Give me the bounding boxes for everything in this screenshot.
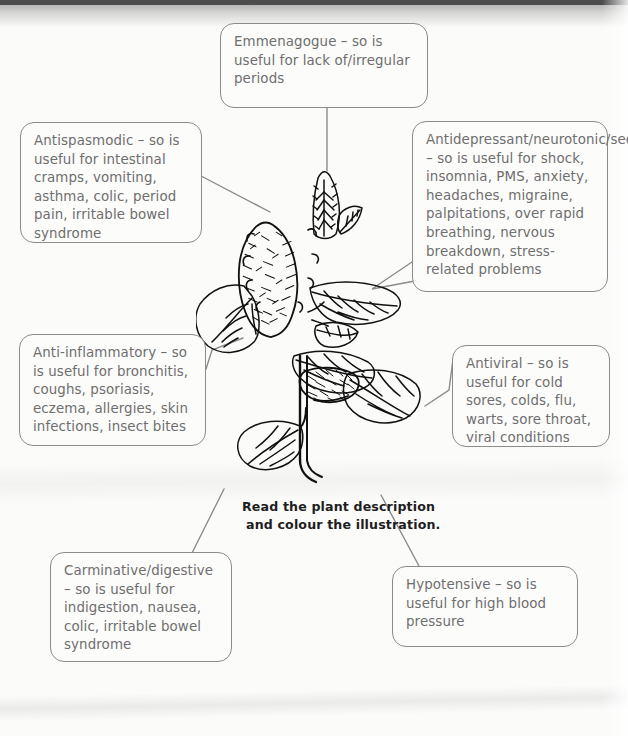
leader-antispasmodic bbox=[201, 176, 270, 212]
callout-hypotensive[interactable]: Hypotensive – so is useful for high bloo… bbox=[392, 566, 578, 647]
scan-shadow-bottom bbox=[0, 684, 628, 722]
callout-antidepressant[interactable]: Antidepressant/neurotonic/sedative/calmi… bbox=[412, 121, 608, 292]
callout-emmenagogue[interactable]: Emmenagogue – so is useful for lack of/i… bbox=[220, 23, 428, 108]
callout-antispasmodic[interactable]: Antispasmodic – so is useful for intesti… bbox=[20, 122, 202, 243]
callout-carminative-digestive[interactable]: Carminative/digestive – so is useful for… bbox=[50, 552, 232, 662]
leader-antiviral bbox=[425, 359, 453, 406]
callout-antispasmodic-text: Antispasmodic – so is useful for intesti… bbox=[34, 132, 190, 244]
leader-antidepressant bbox=[372, 262, 415, 289]
callout-hypotensive-text: Hypotensive – so is useful for high bloo… bbox=[406, 576, 566, 632]
instruction-line-2: and colour the illustration. bbox=[242, 516, 452, 534]
callout-emmenagogue-text: Emmenagogue – so is useful for lack of/i… bbox=[234, 33, 416, 89]
callout-antidepressant-text: Antidepressant/neurotonic/sedative/calmi… bbox=[426, 131, 596, 280]
instruction-text: Read the plant description and colour th… bbox=[242, 498, 452, 534]
instruction-line-1: Read the plant description bbox=[242, 498, 452, 516]
peppermint-plant-illustration bbox=[196, 160, 426, 490]
leader-carminative bbox=[192, 489, 224, 553]
leader-anti-inflammatory bbox=[206, 338, 243, 369]
callout-anti-inflammatory-text: Anti-inflammatory – so is useful for bro… bbox=[33, 344, 194, 437]
callout-anti-inflammatory[interactable]: Anti-inflammatory – so is useful for bro… bbox=[19, 334, 206, 446]
worksheet-page: Emmenagogue – so is useful for lack of/i… bbox=[0, 0, 628, 736]
callout-carminative-text: Carminative/digestive – so is useful for… bbox=[64, 562, 220, 655]
callout-antiviral-text: Antiviral – so is useful for cold sores,… bbox=[466, 355, 598, 448]
callout-antiviral[interactable]: Antiviral – so is useful for cold sores,… bbox=[452, 345, 610, 447]
